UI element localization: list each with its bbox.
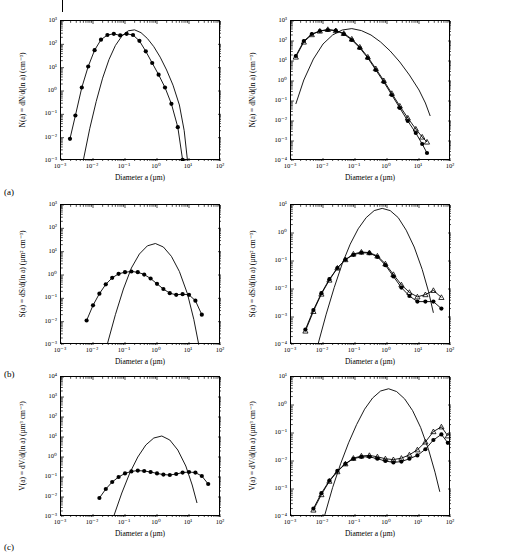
panel-b-left-xtick-5: 10² (209, 346, 231, 353)
panel-b-left-ytick-5: 10² (34, 223, 57, 230)
panel-c-right-plot-area (290, 376, 450, 516)
panel-a-right-xlabel: Diameter a (µm) (290, 173, 450, 182)
panel-c-left-ytick-4: 10¹ (34, 432, 57, 439)
panel-c-left-series-model (114, 436, 197, 516)
panel-c-left-xtick-3: 10⁰ (145, 518, 167, 526)
panel-a-right-xtick-4: 10¹ (407, 162, 429, 169)
panel-c-right-ytick-5: 10¹ (264, 372, 287, 379)
panel-a-right: 10⁻³10⁻²10⁻¹10⁰10¹10²10⁻⁴10⁻³10⁻²10⁻¹10⁰… (290, 20, 450, 194)
panel-a-left-ytick-5: 10² (34, 39, 57, 46)
panel-a-left-ytick-6: 10³ (34, 16, 57, 23)
panel-a-left: 10⁻³10⁻²10⁻¹10⁰10¹10²10⁻³10⁻²10⁻¹10⁰10¹1… (60, 20, 220, 194)
header-vertical-rule (62, 0, 63, 12)
panel-c-right-xtick-3: 10⁰ (375, 518, 397, 526)
panel-c-right-xtick-5: 10² (439, 518, 461, 525)
panel-a-right-series-model (296, 29, 430, 116)
panel-a-left-xtick-5: 10² (209, 162, 231, 169)
panel-a-left-plot-area (60, 20, 220, 160)
panel-c-left-xtick-2: 10⁻¹ (113, 518, 135, 526)
panel-c-left-ytick-3: 10⁰ (34, 452, 57, 460)
panel-a-left-xtick-4: 10¹ (177, 162, 199, 169)
panel-a-right-ylabel: N(a) = dN/d(ln a) (cm⁻³) (248, 20, 257, 160)
panel-c-left: 10⁻³10⁻²10⁻¹10⁰10¹10²10⁻³10⁻²10⁻¹10⁰10¹1… (60, 376, 220, 550)
panel-c-right-ytick-2: 10⁻² (264, 456, 287, 464)
panel-b-right-ytick-2: 10⁻² (264, 284, 287, 292)
panel-c-left-ytick-7: 10⁴ (34, 372, 57, 379)
panel-b-right-ytick-4: 10⁰ (264, 228, 287, 236)
panel-b-left-xtick-4: 10¹ (177, 346, 199, 353)
panel-c-left-ytick-5: 10² (34, 412, 57, 419)
panel-c-left-xtick-4: 10¹ (177, 518, 199, 525)
panel-c-right-series-measured-circles (313, 434, 447, 508)
panel-c-right-series-model (325, 389, 440, 516)
panel-c-left-data-layer (61, 377, 221, 517)
panel-a-right-ytick-7: 10³ (264, 16, 287, 23)
panel-b-left-ytick-0: 10⁻³ (34, 340, 57, 348)
panel-c-left-xtick-1: 10⁻² (81, 518, 103, 526)
panel-b-right-ytick-0: 10⁻⁴ (264, 340, 287, 348)
panel-c-right-ytick-3: 10⁻¹ (264, 428, 287, 436)
panel-a-left-ytick-3: 10⁰ (34, 86, 57, 94)
panel-a-right-ytick-3: 10⁻¹ (264, 96, 287, 104)
panel-b-right-data-layer (291, 205, 451, 345)
panel-a-right-ytick-5: 10¹ (264, 56, 287, 63)
panel-c-left-ytick-6: 10³ (34, 392, 57, 399)
panel-c-left-ytick-2: 10⁻¹ (34, 472, 57, 480)
row-label-b: (b) (4, 369, 15, 379)
panel-a-left-xtick-2: 10⁻¹ (113, 162, 135, 170)
panel-a-right-xtick-1: 10⁻² (311, 162, 333, 170)
panel-b-left-ytick-1: 10⁻² (34, 317, 57, 325)
panel-b-left-ytick-4: 10¹ (34, 247, 57, 254)
panel-b-right-series-measured-circles (305, 253, 441, 330)
panel-b-right-xlabel: Diameter a (µm) (290, 357, 450, 366)
panel-a-left-ytick-1: 10⁻² (34, 133, 57, 141)
panel-c-right-ytick-1: 10⁻³ (264, 484, 287, 492)
panel-c-right-xtick-4: 10¹ (407, 518, 429, 525)
panel-a-right-ytick-0: 10⁻⁴ (264, 156, 287, 164)
panel-c-left-xtick-5: 10² (209, 518, 231, 525)
panel-b-right-xtick-1: 10⁻² (311, 346, 333, 354)
panel-c-right-ytick-4: 10⁰ (264, 400, 287, 408)
panel-a-left-xtick-1: 10⁻² (81, 162, 103, 170)
panel-b-right-xtick-5: 10² (439, 346, 461, 353)
panel-b-right-series-model (318, 208, 433, 343)
panel-a-right-data-layer (291, 21, 451, 161)
panel-c-right-series-measured-triangles (313, 427, 447, 510)
panel-c-left-ytick-0: 10⁻³ (34, 512, 57, 520)
panel-b-left-xlabel: Diameter a (µm) (60, 357, 220, 366)
panel-a-left-ytick-0: 10⁻³ (34, 156, 57, 164)
panel-b-left: 10⁻³10⁻²10⁻¹10⁰10¹10²10⁻³10⁻²10⁻¹10⁰10¹1… (60, 204, 220, 378)
panel-b-left-series-measured (87, 272, 202, 321)
panel-b-left-xtick-3: 10⁰ (145, 346, 167, 354)
figure-grid: (a) (b) (c) 10⁻³10⁻²10⁻¹10⁰10¹10²10⁻³10⁻… (0, 12, 506, 552)
panel-a-right-ytick-1: 10⁻³ (264, 136, 287, 144)
panel-c-left-xlabel: Diameter a (µm) (60, 529, 220, 538)
panel-a-left-xtick-3: 10⁰ (145, 162, 167, 170)
panel-a-right-ytick-6: 10² (264, 36, 287, 43)
panel-b-left-xtick-2: 10⁻¹ (113, 346, 135, 354)
panel-b-left-data-layer (61, 205, 221, 345)
panel-b-left-xtick-1: 10⁻² (81, 346, 103, 354)
page-header-rule (0, 0, 506, 12)
panel-c-right-xlabel: Diameter a (µm) (290, 529, 450, 538)
panel-a-left-data-layer (61, 21, 221, 161)
panel-b-left-ytick-2: 10⁻¹ (34, 293, 57, 301)
row-label-a: (a) (4, 187, 14, 197)
panel-c-right-ylabel: V(a) = dV/d(ln a) (µm³ cm⁻³) (248, 376, 257, 516)
panel-b-right-xtick-2: 10⁻¹ (343, 346, 365, 354)
panel-c-right-data-layer (291, 377, 451, 517)
panel-a-left-xlabel: Diameter a (µm) (60, 173, 220, 182)
panel-a-right-xtick-5: 10² (439, 162, 461, 169)
row-label-c: (c) (4, 542, 14, 552)
panel-b-right-ylabel: S(a) = dS/d(ln a) (µm² cm⁻³) (248, 204, 257, 344)
panel-c-right-xtick-2: 10⁻¹ (343, 518, 365, 526)
panel-b-right-xtick-4: 10¹ (407, 346, 429, 353)
panel-a-right-plot-area (290, 20, 450, 160)
panel-a-right-ytick-2: 10⁻² (264, 116, 287, 124)
panel-b-right-plot-area (290, 204, 450, 344)
panel-a-right-xtick-3: 10⁰ (375, 162, 397, 170)
panel-b-right: 10⁻³10⁻²10⁻¹10⁰10¹10²10⁻⁴10⁻³10⁻²10⁻¹10⁰… (290, 204, 450, 378)
panel-c-left-ylabel: V(a) = dV/d(ln a) (µm³ cm⁻³) (18, 376, 27, 516)
panel-c-right: 10⁻³10⁻²10⁻¹10⁰10¹10²10⁻⁴10⁻³10⁻²10⁻¹10⁰… (290, 376, 450, 550)
panel-a-left-ylabel: N(a) = dN/d(ln a) (cm⁻³) (18, 20, 27, 160)
